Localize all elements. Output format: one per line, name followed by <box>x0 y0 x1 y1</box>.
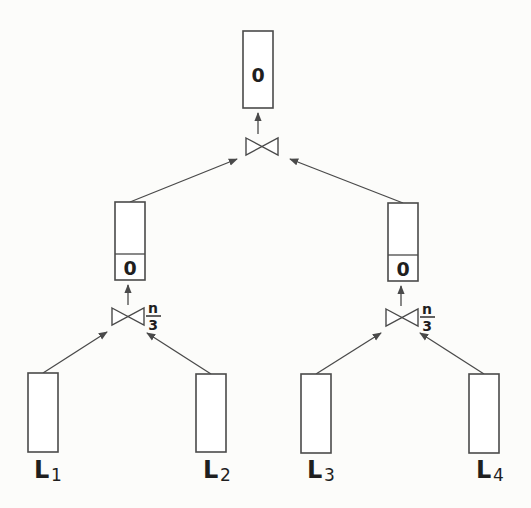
leaf-label-L2: L 2 <box>203 456 231 485</box>
leaf-box-L3 <box>301 374 331 453</box>
svg-text:L: L <box>307 456 322 484</box>
arrow-L4-to-right-join <box>420 333 484 374</box>
svg-text:1: 1 <box>51 465 62 485</box>
leaf-box-L1 <box>28 373 58 452</box>
svg-text:L: L <box>203 456 218 484</box>
leaf-label-L4: L 4 <box>476 456 504 485</box>
leaf-label-L3: L 3 <box>307 456 335 485</box>
arrow-left-to-root-join <box>130 159 237 202</box>
right-result-box: 0 <box>388 203 418 281</box>
left-result-box: 0 <box>115 202 145 280</box>
root-result-box: 0 <box>243 31 273 108</box>
svg-text:L: L <box>34 456 49 484</box>
right-join-bowtie-icon <box>386 309 418 326</box>
join-tree-diagram: 0 0 n 3 0 n <box>0 0 531 508</box>
right-result-value: 0 <box>396 258 409 280</box>
leaf-box-L4 <box>469 374 499 453</box>
svg-text:3: 3 <box>324 465 335 485</box>
svg-text:3: 3 <box>422 318 432 334</box>
svg-text:L: L <box>476 456 491 484</box>
leaf-label-L1: L 1 <box>34 456 62 485</box>
svg-text:n: n <box>422 301 432 317</box>
svg-text:n: n <box>148 300 158 316</box>
left-result-value: 0 <box>123 257 136 279</box>
left-join-fraction: n 3 <box>146 300 161 333</box>
arrow-L3-to-right-join <box>316 333 381 374</box>
arrow-L2-to-left-join <box>147 333 211 374</box>
root-value: 0 <box>251 64 264 86</box>
svg-text:2: 2 <box>220 465 231 485</box>
arrow-L1-to-left-join <box>43 332 107 373</box>
right-join-fraction: n 3 <box>420 301 435 334</box>
left-join-bowtie-icon <box>112 308 144 325</box>
svg-text:4: 4 <box>493 465 504 485</box>
diagram-svg: 0 0 n 3 0 n <box>0 0 531 508</box>
root-join-bowtie-icon <box>246 138 278 155</box>
leaf-box-L2 <box>196 374 226 452</box>
arrow-right-to-root-join <box>290 159 403 203</box>
svg-text:3: 3 <box>148 317 158 333</box>
